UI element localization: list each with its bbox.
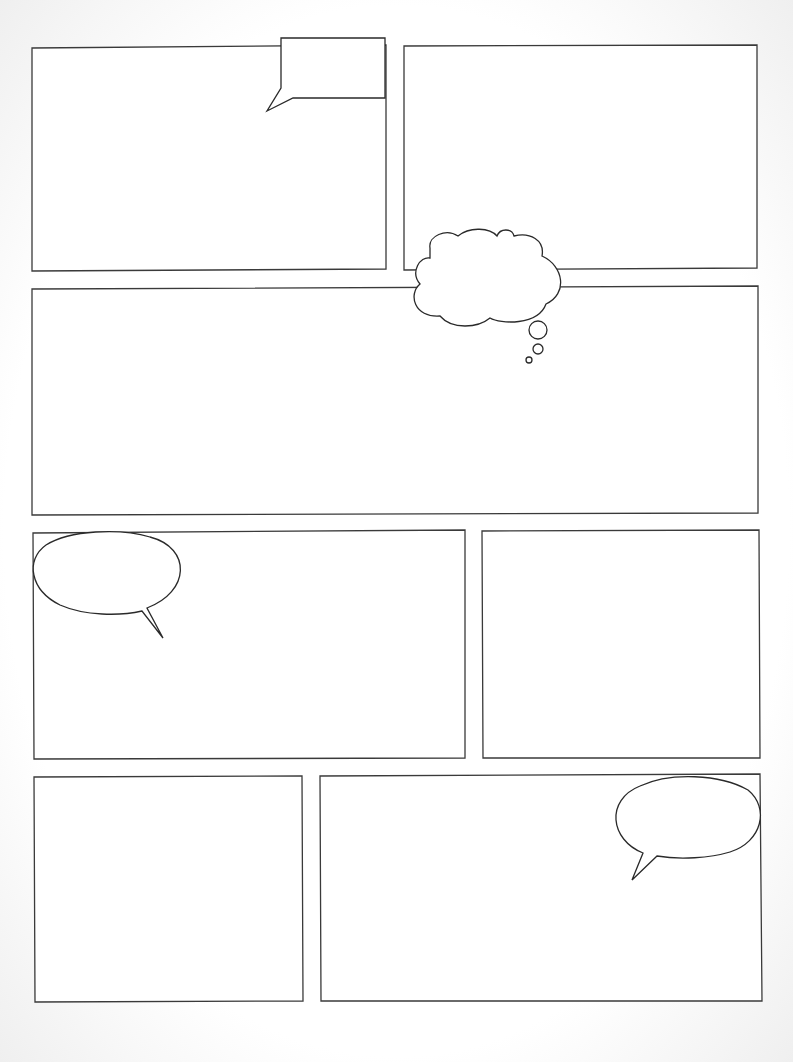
comic-page xyxy=(0,0,793,1062)
thought-dot-3 xyxy=(526,357,532,363)
panel-6 xyxy=(34,776,303,1002)
thought-bubble-shape xyxy=(414,229,561,326)
comic-page-canvas xyxy=(0,0,793,1062)
panel-5 xyxy=(482,530,760,758)
thought-dot-2 xyxy=(533,344,543,354)
panel-3 xyxy=(32,286,758,515)
thought-dot-1 xyxy=(529,321,547,339)
